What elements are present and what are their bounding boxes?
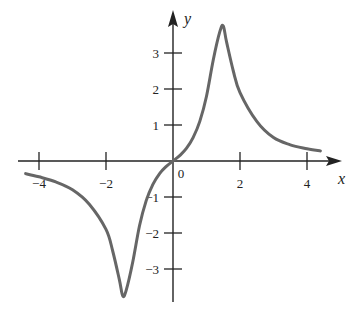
x-tick-label: 2 [237, 176, 244, 191]
x-tick-label: 0 [178, 166, 185, 181]
axes: −4−2024−3−2−1123xy [18, 10, 345, 302]
y-tick-label: −3 [145, 262, 159, 277]
x-tick-label: 4 [304, 176, 311, 191]
x-tick-label: −2 [99, 176, 113, 191]
y-tick-label: 1 [153, 118, 160, 133]
y-tick-label: 2 [153, 82, 160, 97]
x-axis-label: x [337, 170, 345, 187]
chart: −4−2024−3−2−1123xy [0, 0, 361, 321]
y-axis-label: y [182, 10, 192, 28]
y-tick-label: −2 [145, 226, 159, 241]
y-tick-label: 3 [153, 46, 160, 61]
plot-area: −4−2024−3−2−1123xy [0, 0, 361, 321]
